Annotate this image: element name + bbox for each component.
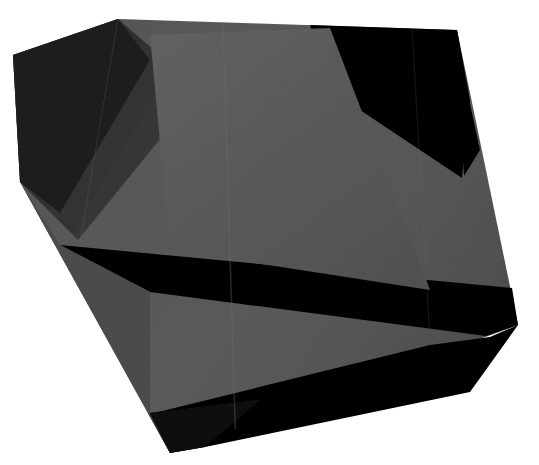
abstract-polygon-figure: Abstract dark polygonal form [0, 0, 539, 465]
artboard: Abstract dark polygonal form [0, 0, 539, 465]
